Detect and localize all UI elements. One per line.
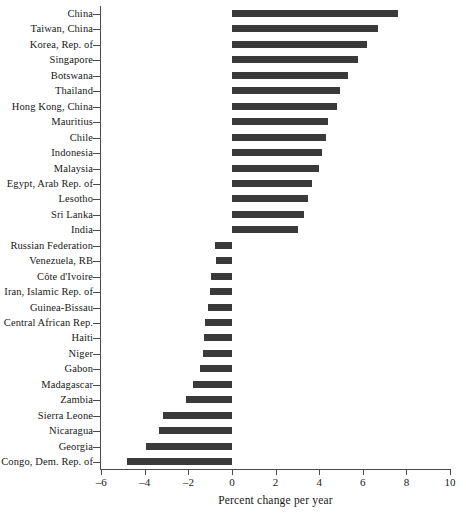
category-label: Côte d'Ivoire [0,269,93,285]
y-axis-tick [93,261,100,262]
y-axis-tick [93,184,100,185]
bar-row: Georgia [0,439,466,455]
bar [232,87,340,94]
y-axis-tick [93,354,100,355]
bar [232,72,348,79]
y-axis-tick [93,447,100,448]
y-axis-tick [93,215,100,216]
x-axis-tick [406,469,407,475]
y-axis-tick [93,400,100,401]
x-axis-tick [101,469,102,475]
y-axis-tick [93,277,100,278]
bar [211,273,232,280]
bar [232,56,358,63]
bar-row: Singapore [0,52,466,68]
y-axis-tick [93,60,100,61]
category-label: Sri Lanka [0,207,93,223]
y-axis-tick [93,29,100,30]
bar [232,195,308,202]
y-axis-tick [93,369,100,370]
bar [232,103,337,110]
bar-row: Zambia [0,392,466,408]
bar-row: Korea, Rep. of [0,37,466,53]
bar [216,257,232,264]
y-axis-tick [93,153,100,154]
bar [232,118,328,125]
bar-row: Mauritius [0,114,466,130]
bar-row: Venezuela, RB [0,253,466,269]
y-axis-tick [93,199,100,200]
bar-row: India [0,222,466,238]
y-axis-tick [93,14,100,15]
category-label: Niger [0,346,93,362]
category-label: Korea, Rep. of [0,37,93,53]
bar-row: Iran, Islamic Rep. of [0,284,466,300]
category-label: Russian Federation [0,238,93,254]
x-axis-tick [188,469,189,475]
y-axis-tick [93,385,100,386]
bar [232,180,312,187]
bar-row: Madagascar [0,377,466,393]
y-axis-tick [93,91,100,92]
y-axis-tick [93,431,100,432]
category-label: Venezuela, RB [0,253,93,269]
bar-row: Haiti [0,330,466,346]
category-label: Madagascar [0,377,93,393]
bar [232,134,326,141]
bar [215,242,232,249]
bar [186,396,232,403]
bar-row: Nicaragua [0,423,466,439]
y-axis-tick [93,338,100,339]
bar [232,10,398,17]
bar-row: Botswana [0,68,466,84]
x-axis-tick-label: 2 [256,476,296,488]
bar-row: Sierra Leone [0,408,466,424]
category-label: Botswana [0,68,93,84]
y-axis-tick [93,122,100,123]
category-label: Indonesia [0,145,93,161]
bar-row: Taiwan, China [0,21,466,37]
category-label: Central African Rep. [0,315,93,331]
plot-area: ChinaTaiwan, ChinaKorea, Rep. ofSingapor… [0,0,466,524]
category-label: Zambia [0,392,93,408]
x-axis-tick [276,469,277,475]
bar-row: Malaysia [0,161,466,177]
category-label: Nicaragua [0,423,93,439]
x-axis-tick [319,469,320,475]
y-axis-tick [93,76,100,77]
x-axis-tick-label: 0 [212,476,252,488]
category-label: Haiti [0,330,93,346]
y-axis-tick [93,45,100,46]
x-axis-tick-label: –2 [168,476,208,488]
x-axis-tick-label: –4 [125,476,165,488]
x-axis-tick [363,469,364,475]
bar-row: Lesotho [0,191,466,207]
bar-row: Côte d'Ivoire [0,269,466,285]
bar [205,319,232,326]
category-label: Thailand [0,83,93,99]
bar-row: Egypt, Arab Rep. of [0,176,466,192]
y-axis-tick [93,169,100,170]
y-axis-tick [93,308,100,309]
y-axis-tick [93,138,100,139]
bar-row: Central African Rep. [0,315,466,331]
bar [232,165,319,172]
category-label: Malaysia [0,161,93,177]
category-label: India [0,222,93,238]
y-axis-tick [93,230,100,231]
bar-row: Guinea-Bissau [0,300,466,316]
x-axis-tick [145,469,146,475]
bar [232,25,378,32]
y-axis-tick [93,462,100,463]
bar [200,365,232,372]
x-axis-tick-label: 6 [343,476,383,488]
bar-row: Thailand [0,83,466,99]
bar-row: Hong Kong, China [0,99,466,115]
bar-row: Russian Federation [0,238,466,254]
category-label: China [0,6,93,22]
bar [232,149,322,156]
x-axis-tick [232,469,233,475]
x-axis-tick-label: –6 [81,476,121,488]
bar [210,288,232,295]
category-label: Congo, Dem. Rep. of [0,454,93,470]
